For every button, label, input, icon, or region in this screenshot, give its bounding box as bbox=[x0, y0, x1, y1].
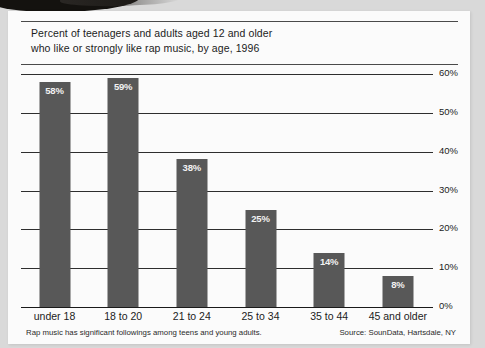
x-category-label: 45 and older bbox=[364, 310, 431, 322]
y-tick-label: 0% bbox=[439, 300, 453, 311]
bar-slot: 38% bbox=[158, 74, 225, 307]
bar-value-label: 8% bbox=[382, 279, 413, 290]
title-rule-top bbox=[21, 21, 458, 22]
y-tick-label: 10% bbox=[439, 261, 458, 272]
chart-title: Percent of teenagers and adults aged 12 … bbox=[31, 26, 451, 55]
bar-slot: 14% bbox=[296, 74, 363, 307]
chart-title-line-1: Percent of teenagers and adults aged 12 … bbox=[31, 26, 451, 41]
y-tick-label: 60% bbox=[439, 67, 458, 78]
bar-value-label: 38% bbox=[176, 162, 207, 173]
chart-card: Percent of teenagers and adults aged 12 … bbox=[8, 11, 470, 344]
bar-value-label: 59% bbox=[108, 81, 139, 92]
y-tick-label: 40% bbox=[439, 145, 458, 156]
y-tick-label: 20% bbox=[439, 222, 458, 233]
bar[interactable]: 14% bbox=[314, 253, 345, 307]
bar-slot: 59% bbox=[90, 74, 157, 307]
chart-title-line-2: who like or strongly like rap music, by … bbox=[31, 41, 451, 56]
x-category-label: 18 to 20 bbox=[90, 310, 157, 322]
bar-slot: 58% bbox=[21, 74, 88, 307]
bar-value-label: 58% bbox=[39, 85, 70, 96]
bar-value-label: 25% bbox=[245, 213, 276, 224]
footer-note: Rap music has significant followings amo… bbox=[26, 328, 262, 337]
bar[interactable]: 59% bbox=[108, 78, 139, 307]
bar-slot: 8% bbox=[364, 74, 431, 307]
scanned-page: Percent of teenagers and adults aged 12 … bbox=[0, 0, 485, 348]
bar[interactable]: 38% bbox=[176, 159, 207, 307]
gridline-0% bbox=[21, 307, 433, 308]
bar-slot: 25% bbox=[227, 74, 294, 307]
x-category-label: under 18 bbox=[21, 310, 88, 322]
bar-series: 58%59%38%25%14%8% bbox=[21, 74, 433, 307]
bar-value-label: 14% bbox=[314, 256, 345, 267]
x-category-label: 25 to 34 bbox=[227, 310, 294, 322]
footer-source: Source: SounData, Hartsdale, NY bbox=[339, 328, 456, 337]
title-rule-bottom bbox=[21, 64, 458, 65]
bar[interactable]: 8% bbox=[382, 276, 413, 307]
y-tick-label: 50% bbox=[439, 106, 458, 117]
x-category-label: 21 to 24 bbox=[158, 310, 225, 322]
bar[interactable]: 25% bbox=[245, 210, 276, 307]
plot-area: 58%59%38%25%14%8% 0%10%20%30%40%50%60% bbox=[21, 74, 458, 307]
y-tick-label: 30% bbox=[439, 184, 458, 195]
x-category-label: 35 to 44 bbox=[296, 310, 363, 322]
x-axis-category-labels: under 1818 to 2021 to 2425 to 3435 to 44… bbox=[21, 310, 433, 326]
bar[interactable]: 58% bbox=[39, 82, 70, 307]
